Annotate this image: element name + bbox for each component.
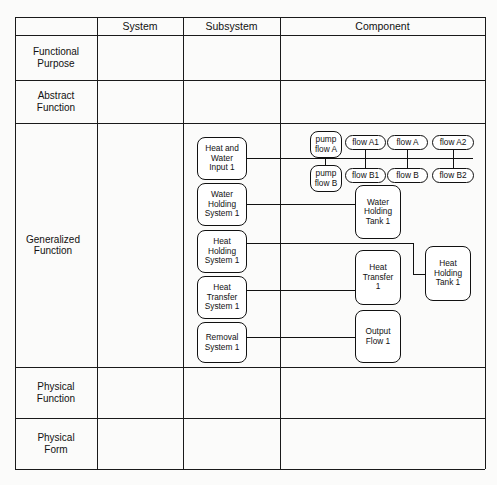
row-label-functional-purpose: Functional Purpose — [15, 35, 97, 80]
connector-line — [246, 290, 356, 291]
column-header-component: Component — [280, 20, 485, 32]
component-flow-a2[interactable]: flow A2 — [432, 135, 474, 150]
component-flow-b1[interactable]: flow B1 — [345, 168, 386, 183]
row-label-generalized-function: Generalized Function — [12, 123, 94, 367]
grid-line — [97, 17, 98, 469]
component-water-holding-tank[interactable]: Water Holding Tank 1 — [355, 185, 401, 239]
subsystem-heat-transfer-system[interactable]: Heat Transfer System 1 — [197, 276, 247, 319]
component-heat-holding-tank[interactable]: Heat Holding Tank 1 — [425, 246, 471, 301]
column-header-system: System — [97, 20, 183, 32]
connector-line — [407, 148, 408, 170]
component-flow-a1[interactable]: flow A1 — [345, 135, 386, 150]
connector-line — [246, 158, 473, 159]
subsystem-removal-system[interactable]: Removal System 1 — [197, 322, 247, 363]
component-flow-b[interactable]: flow B — [387, 168, 428, 183]
component-heat-transfer[interactable]: Heat Transfer 1 — [355, 250, 401, 305]
row-label-physical-form: Physical Form — [15, 418, 97, 469]
row-label-abstract-function: Abstract Function — [15, 80, 97, 123]
grid-line — [485, 17, 486, 469]
component-flow-b2[interactable]: flow B2 — [432, 168, 474, 183]
connector-line — [365, 148, 366, 170]
component-output-flow[interactable]: Output Flow 1 — [355, 310, 401, 363]
column-header-subsystem: Subsystem — [183, 20, 280, 32]
component-flow-a[interactable]: flow A — [387, 135, 428, 150]
connector-line — [246, 243, 414, 244]
connector-line — [246, 204, 356, 205]
subsystem-water-holding-system[interactable]: Water Holding System 1 — [197, 183, 247, 226]
grid-line — [183, 17, 184, 469]
subsystem-heat-holding-system[interactable]: Heat Holding System 1 — [197, 230, 247, 273]
connector-line — [413, 243, 414, 275]
grid-line — [15, 17, 485, 18]
row-label-physical-function: Physical Function — [15, 367, 97, 418]
subsystem-heat-and-water-input[interactable]: Heat and Water Input 1 — [197, 137, 247, 180]
component-pump-flow-a[interactable]: pump flow A — [310, 131, 342, 158]
connector-line — [453, 148, 454, 170]
connector-line — [246, 337, 356, 338]
grid-line — [15, 469, 485, 470]
component-pump-flow-b[interactable]: pump flow B — [310, 165, 342, 192]
